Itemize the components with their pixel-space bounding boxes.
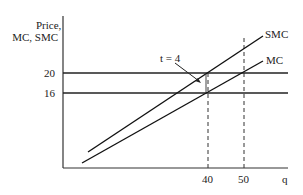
chart: Price, MC, SMC 20 16 40 50 q SMC MC t = … — [0, 0, 303, 195]
mc-curve — [82, 61, 263, 163]
smc-label: SMC — [265, 28, 288, 40]
y-tick-16: 16 — [44, 87, 55, 99]
x-tick-50: 50 — [238, 173, 249, 185]
y-axis-label-line1: Price, — [36, 19, 58, 31]
y-axis-label-line2: MC, SMC — [10, 31, 58, 43]
mc-label: MC — [266, 54, 283, 66]
tax-arrow — [175, 63, 199, 81]
y-tick-20: 20 — [44, 67, 55, 79]
x-tick-40: 40 — [202, 173, 213, 185]
tax-label: t = 4 — [160, 52, 180, 64]
x-axis-label: q — [282, 173, 288, 185]
